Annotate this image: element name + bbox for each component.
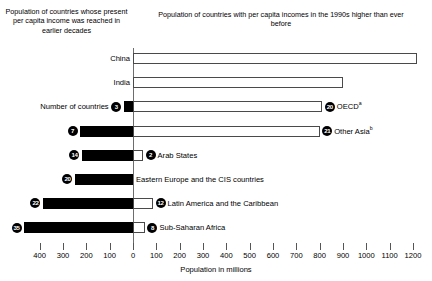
header-caption-left: Population of countries whose present pe…	[2, 7, 131, 35]
axis-tick	[110, 243, 111, 250]
bar-row: 20Eastern Europe and the CIS countries	[0, 171, 432, 187]
bar-right-higher-than-ever[interactable]	[133, 77, 343, 88]
country-count-badge-left: 20	[62, 174, 72, 184]
axis-tick	[226, 243, 227, 250]
axis-tick	[296, 243, 297, 250]
axis-tick	[180, 243, 181, 250]
bar-right-higher-than-ever[interactable]	[133, 150, 143, 161]
bar-row: 320OECDaNumber of countries	[0, 98, 432, 114]
country-count-badge-left: 22	[30, 198, 40, 208]
chart-container: Population of countries whose present pe…	[0, 0, 432, 281]
axis-tick	[250, 243, 251, 250]
country-count-badge-right: 8	[147, 223, 157, 233]
axis-tick	[366, 243, 367, 250]
header-caption-right: Population of countries with per capita …	[150, 10, 412, 29]
axis-tick	[343, 243, 344, 250]
country-count-badge-left: 14	[69, 150, 79, 160]
region-label: Sub-Saharan Africa	[159, 222, 225, 233]
bar-left-earlier-decades[interactable]	[82, 150, 133, 161]
bar-row: 2212Latin America and the Caribbean	[0, 195, 432, 211]
footnote-marker: a	[359, 101, 362, 107]
axis-tick	[40, 243, 41, 250]
axis-tick	[156, 243, 157, 250]
axis-tick	[86, 243, 87, 250]
axis-tick-label: 1200	[398, 251, 428, 261]
bar-right-higher-than-ever[interactable]	[133, 101, 322, 112]
country-label: India	[0, 77, 130, 88]
bar-row: 142Arab States	[0, 147, 432, 163]
bar-row: 721Other Asiab	[0, 123, 432, 139]
bar-left-earlier-decades[interactable]	[80, 126, 133, 137]
country-count-badge-right: 2	[146, 150, 156, 160]
bar-left-earlier-decades[interactable]	[24, 222, 133, 233]
bar-left-earlier-decades[interactable]	[124, 101, 133, 112]
bar-left-earlier-decades[interactable]	[75, 174, 133, 185]
axis-tick	[413, 243, 414, 250]
country-label: China	[0, 53, 130, 64]
country-count-badge-left: 7	[68, 126, 78, 136]
country-count-badge-right: 12	[156, 198, 166, 208]
region-label: Other Asiab	[334, 126, 372, 137]
bar-left-earlier-decades[interactable]	[43, 198, 133, 209]
bar-right-higher-than-ever[interactable]	[133, 198, 153, 209]
x-axis-title: Population in millions	[0, 265, 432, 274]
country-count-badge-left: 35	[12, 223, 22, 233]
bar-row: China	[0, 50, 432, 66]
bar-right-higher-than-ever[interactable]	[133, 53, 417, 64]
axis-tick	[63, 243, 64, 250]
region-label: Eastern Europe and the CIS countries	[136, 174, 264, 185]
bar-row: 358Sub-Saharan Africa	[0, 219, 432, 235]
x-axis: 4003002001000100200300400500600700800900…	[0, 243, 432, 281]
region-label: OECDa	[337, 101, 362, 112]
bar-right-higher-than-ever[interactable]	[133, 126, 320, 137]
axis-tick	[133, 243, 134, 250]
country-count-badge-left: 3	[111, 102, 121, 112]
axis-tick	[273, 243, 274, 250]
bar-row: India	[0, 74, 432, 90]
axis-tick	[320, 243, 321, 250]
number-of-countries-label: Number of countries	[0, 101, 109, 112]
country-count-badge-right: 20	[325, 102, 335, 112]
region-label: Arab States	[158, 150, 198, 161]
region-label: Latin America and the Caribbean	[168, 198, 279, 209]
country-count-badge-right: 21	[322, 126, 332, 136]
bar-right-higher-than-ever[interactable]	[133, 222, 145, 233]
axis-tick	[203, 243, 204, 250]
footnote-marker: b	[370, 125, 373, 131]
axis-tick	[390, 243, 391, 250]
